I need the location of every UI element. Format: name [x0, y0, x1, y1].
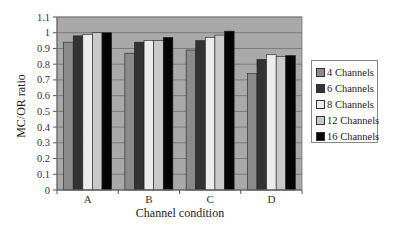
- bar-B-8-channels: [144, 41, 154, 190]
- x-tick-label: C: [206, 193, 213, 205]
- legend-swatch-icon: [316, 100, 325, 109]
- y-tick-label: 0.6: [37, 90, 50, 101]
- x-tick-label: D: [267, 193, 275, 205]
- y-tick-label: 0: [45, 185, 50, 196]
- y-tick-label: 0.8: [37, 59, 50, 70]
- bar-D-6-channels: [257, 59, 267, 190]
- bar-A-16-channels: [102, 33, 112, 190]
- bar-A-6-channels: [73, 36, 83, 190]
- x-tick-label: B: [145, 193, 152, 205]
- x-axis: ABCD: [57, 190, 302, 205]
- y-tick-label: 0.3: [37, 137, 50, 148]
- y-tick-label: 0.9: [37, 43, 50, 54]
- y-tick-label: 0.5: [37, 106, 50, 117]
- bar-B-6-channels: [134, 42, 144, 190]
- legend-label: 4 Channels: [327, 67, 374, 78]
- bar-C-6-channels: [196, 41, 206, 190]
- y-tick-label: 1: [45, 27, 50, 38]
- bar-D-4-channels: [247, 74, 257, 190]
- legend-label: 12 Channels: [327, 115, 379, 126]
- y-tick-label: 0.1: [37, 169, 50, 180]
- bar-A-4-channels: [64, 42, 74, 190]
- bar-B-16-channels: [163, 37, 173, 190]
- bar-C-4-channels: [186, 50, 196, 190]
- legend-item: 12 Channels: [316, 112, 377, 128]
- legend-item: 16 Channels: [316, 128, 377, 144]
- x-tick-label: A: [84, 193, 92, 205]
- bar-C-8-channels: [205, 37, 215, 190]
- legend-label: 6 Channels: [327, 83, 374, 94]
- legend-item: 4 Channels: [316, 64, 377, 80]
- legend-swatch-icon: [316, 84, 325, 93]
- legend-swatch-icon: [316, 132, 325, 141]
- y-axis-label: MC/OR ratio: [14, 74, 28, 138]
- bar-D-12-channels: [276, 56, 286, 190]
- legend: 4 Channels6 Channels8 Channels12 Channel…: [311, 60, 378, 143]
- legend-item: 8 Channels: [316, 96, 377, 112]
- bar-C-12-channels: [215, 35, 225, 190]
- legend-label: 16 Channels: [327, 131, 379, 142]
- bar-C-16-channels: [225, 31, 235, 190]
- legend-swatch-icon: [316, 68, 325, 77]
- bar-A-12-channels: [92, 33, 102, 190]
- bar-D-8-channels: [267, 55, 277, 190]
- y-tick-label: 0.2: [37, 153, 50, 164]
- x-axis-label: Channel condition: [136, 206, 224, 220]
- bar-B-12-channels: [154, 41, 164, 190]
- legend-item: 6 Channels: [316, 80, 377, 96]
- legend-swatch-icon: [316, 116, 325, 125]
- y-tick-label: 1.1: [37, 12, 50, 23]
- bar-D-16-channels: [286, 56, 296, 190]
- bar-B-4-channels: [125, 53, 135, 190]
- y-tick-label: 0.7: [37, 74, 50, 85]
- y-tick-label: 0.4: [37, 122, 51, 133]
- bar-A-8-channels: [83, 34, 93, 190]
- legend-label: 8 Channels: [327, 99, 374, 110]
